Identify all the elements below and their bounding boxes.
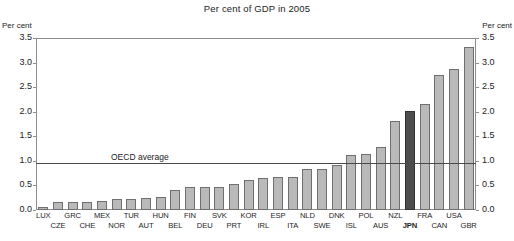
bar-fin [185,187,195,210]
y-tick-label-right-4: 2.0 [482,107,495,116]
y-tick-label-right-1: 0.5 [482,180,495,189]
y-tick-mark-left-0 [33,210,36,211]
y-tick-label-left-3: 1.5 [19,131,32,140]
bar-jpn [405,111,415,210]
bar-aus [376,147,386,210]
y-tick-label-left-6: 3.0 [19,58,32,67]
bar-dnk [332,165,342,210]
x-axis-category-labels: LUXCZEGRCCHEMEXNORTURAUTHUNBELFINDEUSVKP… [36,211,476,241]
y-tick-mark-left-7 [33,38,36,39]
bar-usa [449,69,459,210]
bar-bel [170,190,180,210]
x-label-svk: SVK [206,211,232,220]
x-label-fra: FRA [412,211,438,220]
bar-irl [258,178,268,210]
x-label-aus: AUS [368,221,394,230]
bar-hun [156,197,166,210]
bar-esp [273,177,283,210]
y-tick-mark-right-3 [476,136,479,137]
y-tick-label-left-7: 3.5 [19,33,32,42]
bar-che [82,202,92,210]
y-tick-mark-right-0 [476,210,479,211]
y-tick-mark-right-1 [476,185,479,186]
y-tick-mark-left-2 [33,161,36,162]
x-label-cze: CZE [45,221,71,230]
x-label-deu: DEU [192,221,218,230]
y-tick-label-right-3: 1.5 [482,131,495,140]
y-tick-label-right-7: 3.5 [482,33,495,42]
y-tick-mark-left-5 [33,87,36,88]
bar-grc [68,202,78,210]
y-tick-label-right-0: 0.0 [482,205,495,214]
y-tick-label-right-5: 2.5 [482,82,495,91]
x-label-nld: NLD [294,211,320,220]
bar-ita [288,177,298,210]
y-tick-label-left-4: 2.0 [19,107,32,116]
bar-series [36,38,476,210]
x-label-prt: PRT [221,221,247,230]
y-tick-label-right-2: 1.0 [482,156,495,165]
bar-mex [97,201,107,210]
x-label-bel: BEL [162,221,188,230]
x-label-ita: ITA [280,221,306,230]
y-tick-label-left-1: 0.5 [19,180,32,189]
y-tick-mark-left-1 [33,185,36,186]
x-label-nzl: NZL [382,211,408,220]
x-label-che: CHE [74,221,100,230]
oecd-average-line [36,163,476,164]
x-label-aut: AUT [133,221,159,230]
y-tick-mark-right-4 [476,112,479,113]
chart-title: Per cent of GDP in 2005 [0,3,514,14]
y-tick-mark-right-5 [476,87,479,88]
y-tick-mark-left-4 [33,112,36,113]
bar-tur [126,199,136,210]
x-label-mex: MEX [89,211,115,220]
bar-nor [112,199,122,210]
y-tick-mark-left-6 [33,63,36,64]
x-label-irl: IRL [250,221,276,230]
bar-lux [38,207,48,210]
bar-gbr [464,47,474,210]
x-label-isl: ISL [338,221,364,230]
y-tick-mark-right-6 [476,63,479,64]
x-label-pol: POL [353,211,379,220]
x-label-jpn: JPN [397,221,423,230]
x-label-can: CAN [426,221,452,230]
x-label-gbr: GBR [456,221,482,230]
bar-cze [53,202,63,210]
bar-aut [141,198,151,210]
x-label-lux: LUX [30,211,56,220]
chart-root: Per cent of GDP in 2005 Per cent Per cen… [0,0,514,241]
bar-kor [244,180,254,210]
y-tick-label-left-2: 1.0 [19,156,32,165]
x-label-dnk: DNK [324,211,350,220]
x-label-esp: ESP [265,211,291,220]
oecd-average-label: OECD average [108,152,172,162]
bar-fra [420,104,430,210]
y-tick-label-left-5: 2.5 [19,82,32,91]
x-label-usa: USA [441,211,467,220]
x-label-tur: TUR [118,211,144,220]
bar-deu [200,187,210,210]
x-label-hun: HUN [148,211,174,220]
bar-nzl [390,121,400,210]
x-label-grc: GRC [60,211,86,220]
bar-svk [214,187,224,210]
y-tick-mark-left-3 [33,136,36,137]
bar-prt [229,184,239,210]
x-label-swe: SWE [309,221,335,230]
y-tick-mark-right-2 [476,161,479,162]
bar-can [434,75,444,210]
bar-nld [302,169,312,210]
x-label-nor: NOR [104,221,130,230]
y-tick-label-right-6: 3.0 [482,58,495,67]
x-label-kor: KOR [236,211,262,220]
y-axis-right: 0.00.51.01.52.02.53.03.5 [480,0,514,241]
y-axis-left: 0.00.51.01.52.02.53.03.5 [0,0,34,241]
x-label-fin: FIN [177,211,203,220]
bar-swe [317,169,327,210]
y-tick-mark-right-7 [476,38,479,39]
